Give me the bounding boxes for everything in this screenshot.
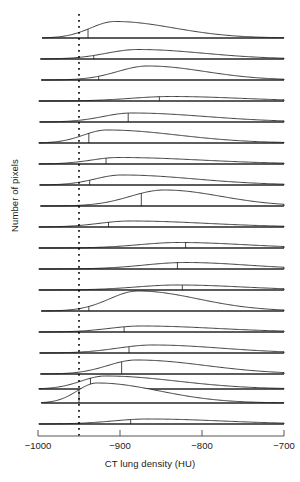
x-tick-label: −700: [273, 440, 294, 451]
density-curve: [39, 376, 284, 389]
density-curve: [39, 419, 284, 424]
density-curve: [39, 97, 284, 102]
density-curve: [39, 326, 284, 332]
density-curve: [40, 175, 284, 185]
y-axis-label: Number of pixels: [9, 136, 20, 256]
density-curve: [39, 243, 284, 249]
density-curve: [40, 345, 284, 353]
density-curve: [42, 22, 284, 39]
density-curve: [39, 221, 284, 227]
density-curve: [40, 360, 284, 374]
ridgeline-series-group: [39, 22, 284, 425]
x-axis-label: CT lung density (HU): [0, 458, 300, 469]
density-curve: [41, 66, 284, 80]
density-curve: [40, 50, 284, 60]
x-tick-label: −1000: [25, 440, 52, 451]
density-curve: [39, 285, 284, 290]
x-axis: [38, 430, 284, 436]
density-curve: [39, 130, 284, 143]
ridgeline-chart-figure: Number of pixels CT lung density (HU) −1…: [0, 0, 300, 482]
x-tick-label: −900: [109, 440, 130, 451]
density-curve: [39, 158, 284, 165]
density-curve: [41, 291, 284, 311]
density-curve: [40, 113, 284, 122]
density-curve: [39, 263, 284, 270]
density-curve: [40, 190, 284, 206]
x-tick-label: −800: [191, 440, 212, 451]
chart-canvas: [0, 0, 300, 482]
